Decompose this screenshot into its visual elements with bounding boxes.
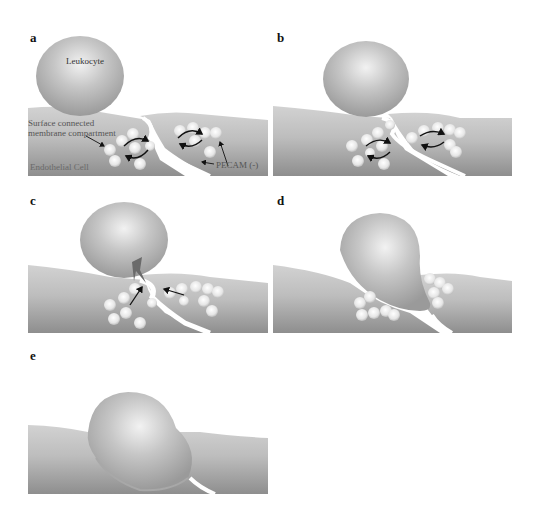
panel-e: e bbox=[0, 340, 270, 516]
panel-e-illustration bbox=[0, 340, 270, 516]
panel-c: c bbox=[0, 185, 270, 345]
panel-d-illustration bbox=[270, 185, 536, 345]
endothelial-cell-label: Endothelial Cell bbox=[30, 162, 89, 172]
panel-b-illustration bbox=[270, 0, 536, 185]
panel-a: a Leukocyte bbox=[0, 0, 270, 185]
pecam-label: PECAM (-) bbox=[216, 160, 258, 170]
panel-c-illustration bbox=[0, 185, 270, 345]
surface-compartment-label-2: membrane compartment bbox=[28, 128, 116, 138]
leukocyte-label: Leukocyte bbox=[66, 56, 104, 66]
panel-d: d bbox=[270, 185, 536, 345]
panel-a-illustration bbox=[0, 0, 270, 185]
panel-b: b bbox=[270, 0, 536, 185]
surface-compartment-label-1: Surface connected bbox=[28, 118, 94, 128]
leukocyte bbox=[80, 202, 168, 278]
leukocyte bbox=[323, 41, 409, 117]
leukocyte bbox=[36, 36, 124, 116]
